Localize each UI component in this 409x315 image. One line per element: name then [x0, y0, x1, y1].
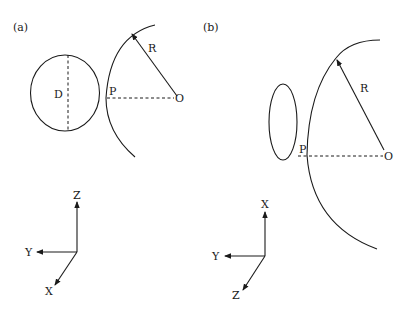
- radius-label: R: [148, 42, 157, 55]
- panel-a-label: (a): [13, 21, 28, 34]
- z-axis-arrow: [243, 256, 265, 290]
- center-o-label: O: [175, 92, 184, 105]
- point-p-label: P: [109, 85, 117, 98]
- x-axis-label: X: [45, 285, 53, 298]
- axes-b: X Y Z: [211, 198, 269, 302]
- x-axis-arrow: [55, 252, 77, 285]
- radius-label: R: [360, 82, 369, 95]
- point-p-label: P: [299, 143, 307, 156]
- panel-b: (b) R P O X Y Z: [203, 21, 393, 302]
- x-axis-label: X: [261, 198, 269, 211]
- panel-b-label: (b): [203, 21, 219, 34]
- z-axis-label: Z: [73, 189, 81, 202]
- panel-a: (a) D R P O Z Y X: [13, 21, 184, 298]
- diameter-label: D: [54, 88, 63, 101]
- center-o-label: O: [384, 150, 393, 163]
- axes-a: Z Y X: [24, 189, 81, 298]
- y-axis-label: Y: [211, 250, 220, 263]
- figure-canvas: (a) D R P O Z Y X (b) R: [0, 0, 409, 315]
- z-axis-label: Z: [232, 289, 240, 302]
- elliptical-aperture: [269, 84, 297, 160]
- radius-arrow: [337, 60, 384, 150]
- circular-aperture: [31, 55, 100, 131]
- y-axis-label: Y: [24, 246, 33, 259]
